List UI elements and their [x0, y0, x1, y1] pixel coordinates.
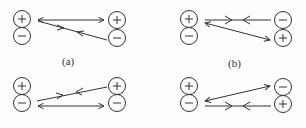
- panel-label-a: (a): [62, 55, 74, 67]
- interaction-line: [38, 21, 107, 40]
- panel-b: [181, 11, 292, 47]
- charge-interaction-diagram: [0, 0, 306, 128]
- panel-a: [14, 11, 126, 47]
- panel-c: [14, 78, 126, 112]
- panel-d: [181, 78, 292, 113]
- double-arrow: [205, 23, 270, 40]
- double-arrow: [205, 86, 270, 101]
- panel-label-b: (b): [228, 57, 241, 69]
- interaction-line: [37, 87, 107, 101]
